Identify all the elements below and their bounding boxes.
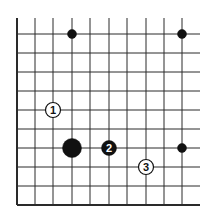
stone-move-1: 1 <box>46 103 61 118</box>
stone-small-black-1 <box>68 30 77 39</box>
black-stone <box>178 30 187 39</box>
go-board-diagram: 123 <box>0 0 213 219</box>
move-number-label: 3 <box>143 161 149 173</box>
black-stone <box>178 144 187 153</box>
black-stone <box>68 30 77 39</box>
move-number-label: 2 <box>106 142 112 154</box>
move-number-label: 1 <box>50 104 56 116</box>
black-stone <box>63 139 82 158</box>
stone-move-3: 3 <box>139 160 154 175</box>
stone-small-black-3 <box>178 144 187 153</box>
stone-move-2: 2 <box>102 141 117 156</box>
stones-layer: 123 <box>46 30 187 175</box>
stone-large-black <box>63 139 82 158</box>
stone-small-black-2 <box>178 30 187 39</box>
board-grid <box>17 18 200 205</box>
